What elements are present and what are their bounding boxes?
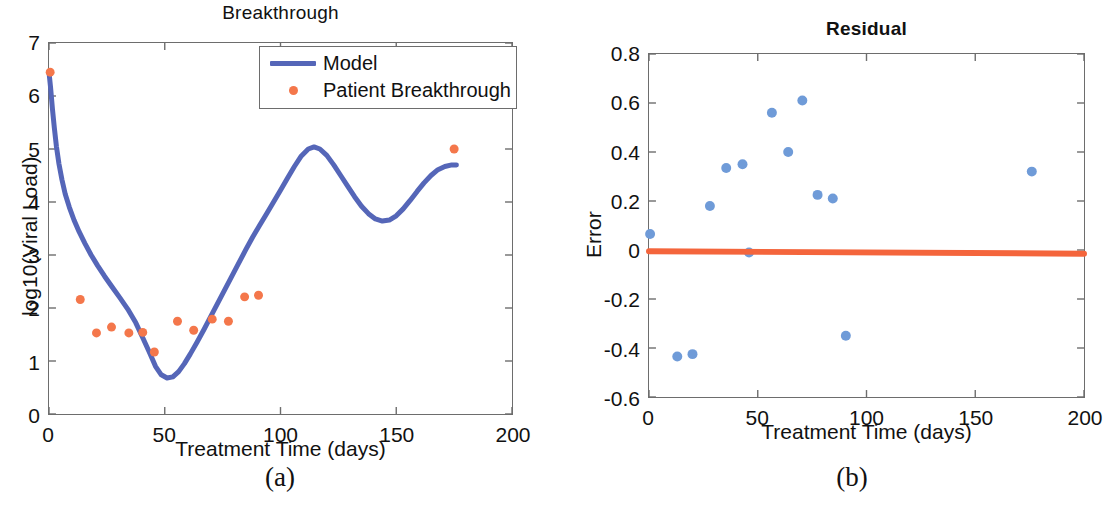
panel-a-breakthrough: Breakthrough 01234567 050100150200 Treat… [0,0,560,505]
legend-label-patient: Patient Breakthrough [320,79,511,102]
data-point [46,68,55,77]
data-point [138,328,147,337]
series-line-1 [649,251,1084,253]
panel-a-x-axis-label: Treatment Time (days) [48,437,513,461]
y-tick-label: 6 [0,85,40,106]
panel-a-y-axis-label: log10(Viral Load) [18,156,42,316]
data-point [224,317,233,326]
data-point [150,348,159,357]
panel-b-y-axis-label: Error [582,211,606,258]
figure-container: Breakthrough 01234567 050100150200 Treat… [0,0,1112,505]
y-tick-label: 0.6 [552,92,640,113]
panel-a-legend: Model Patient Breakthrough [259,46,517,109]
y-tick-label: 0 [0,405,40,426]
legend-line-swatch-icon [266,61,320,66]
panel-b-x-axis-label: Treatment Time (days) [648,420,1085,444]
data-point [76,295,85,304]
data-point [828,194,838,204]
y-tick-label: 1 [0,351,40,372]
data-point [254,291,263,300]
data-point [645,229,655,239]
data-point [721,163,731,173]
data-point [672,352,682,362]
data-point [783,147,793,157]
data-point [688,349,698,359]
legend-entry-patient: Patient Breakthrough [266,77,510,104]
data-point [450,145,459,154]
data-point [841,331,851,341]
series-line-0 [49,72,456,378]
y-tick-label: -0.4 [552,338,640,359]
data-point [208,315,217,324]
data-point [705,201,715,211]
y-tick-label: 0.4 [552,141,640,162]
data-point [107,323,116,332]
data-point [738,159,748,169]
panel-a-title: Breakthrough [48,2,513,24]
y-tick-label: -0.2 [552,289,640,310]
data-point [744,247,754,257]
legend-label-model: Model [320,52,377,75]
legend-dot-swatch-icon [266,86,320,95]
panel-a-subcaption: (a) [265,462,295,493]
panel-b-plot-svg [649,54,1084,397]
y-tick-label: 0.8 [552,43,640,64]
panel-b-title: Residual [648,18,1085,40]
data-point [92,328,101,337]
y-tick-label: 7 [0,32,40,53]
panel-b-residual: Residual -0.6-0.4-0.200.20.40.60.8 05010… [560,0,1112,505]
panel-b-subcaption: (b) [836,462,867,493]
data-point [189,326,198,335]
data-point [124,328,133,337]
data-point [173,317,182,326]
panel-b-plot-area [648,53,1085,398]
legend-entry-model: Model [266,50,510,77]
data-point [767,108,777,118]
data-point [1027,167,1037,177]
data-point [240,292,249,301]
data-point [797,96,807,106]
data-point [813,190,823,200]
y-tick-label: -0.6 [552,388,640,409]
y-tick-label: 0.2 [552,190,640,211]
